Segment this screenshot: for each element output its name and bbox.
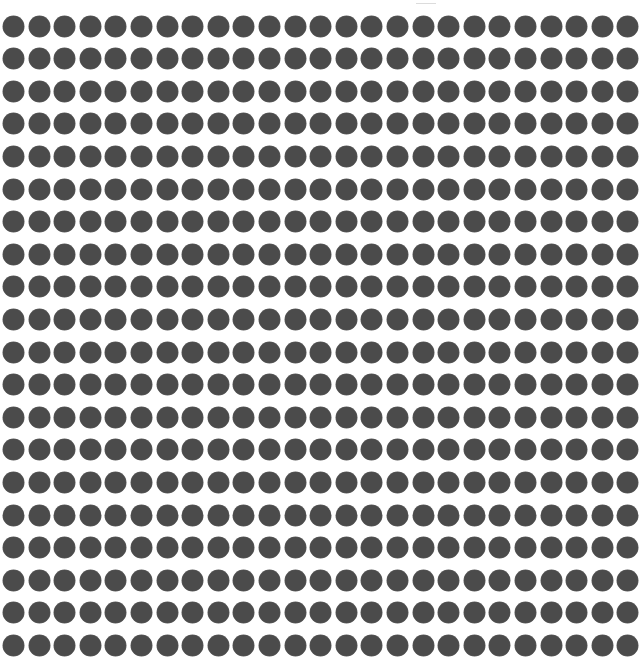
dot-circle-icon bbox=[387, 635, 408, 656]
dot-circle-icon bbox=[182, 570, 203, 591]
dot-circle-icon bbox=[566, 439, 587, 460]
dot-circle-icon bbox=[285, 309, 306, 330]
dot-circle-icon bbox=[310, 309, 331, 330]
dot-circle-icon bbox=[464, 244, 485, 265]
dot-circle-icon bbox=[208, 570, 229, 591]
dot-circle-icon bbox=[182, 211, 203, 232]
dot-circle-icon bbox=[259, 81, 280, 102]
dot-circle-icon bbox=[489, 146, 510, 167]
dot-circle-icon bbox=[361, 635, 382, 656]
dot-circle-icon bbox=[592, 16, 613, 37]
dot-circle-icon bbox=[208, 16, 229, 37]
dot-circle-icon bbox=[489, 570, 510, 591]
dot-circle-icon bbox=[413, 472, 434, 493]
dot-circle-icon bbox=[182, 179, 203, 200]
dot-circle-icon bbox=[489, 342, 510, 363]
dot-circle-icon bbox=[310, 374, 331, 395]
dot-circle-icon bbox=[208, 276, 229, 297]
dot-circle-icon bbox=[285, 244, 306, 265]
dot-circle-icon bbox=[233, 439, 254, 460]
dot-circle-icon bbox=[336, 505, 357, 526]
dot-circle-icon bbox=[566, 472, 587, 493]
dot-circle-icon bbox=[336, 146, 357, 167]
dot-circle-icon bbox=[80, 407, 101, 428]
dot-circle-icon bbox=[489, 407, 510, 428]
dot-circle-icon bbox=[617, 146, 638, 167]
dot-circle-icon bbox=[182, 81, 203, 102]
dot-circle-icon bbox=[541, 179, 562, 200]
dot-circle-icon bbox=[566, 211, 587, 232]
dot-circle-icon bbox=[208, 179, 229, 200]
dot-circle-icon bbox=[233, 342, 254, 363]
dot-circle-icon bbox=[541, 439, 562, 460]
dot-circle-icon bbox=[438, 635, 459, 656]
dot-circle-icon bbox=[285, 635, 306, 656]
dot-circle-icon bbox=[515, 537, 536, 558]
dot-circle-icon bbox=[285, 342, 306, 363]
dot-circle-icon bbox=[285, 16, 306, 37]
dot-circle-icon bbox=[438, 81, 459, 102]
dot-circle-icon bbox=[182, 374, 203, 395]
dot-circle-icon bbox=[464, 570, 485, 591]
dot-circle-icon bbox=[208, 537, 229, 558]
dot-circle-icon bbox=[387, 342, 408, 363]
dot-circle-icon bbox=[54, 146, 75, 167]
dot-circle-icon bbox=[80, 146, 101, 167]
dot-circle-icon bbox=[361, 48, 382, 69]
dot-circle-icon bbox=[387, 505, 408, 526]
dot-circle-icon bbox=[489, 211, 510, 232]
dot-circle-icon bbox=[515, 472, 536, 493]
dot-circle-icon bbox=[131, 439, 152, 460]
dot-circle-icon bbox=[361, 244, 382, 265]
dot-circle-icon bbox=[208, 48, 229, 69]
dot-circle-icon bbox=[233, 16, 254, 37]
dot-circle-icon bbox=[54, 374, 75, 395]
dot-circle-icon bbox=[489, 439, 510, 460]
dot-circle-icon bbox=[310, 276, 331, 297]
dot-circle-icon bbox=[617, 113, 638, 134]
dot-circle-icon bbox=[208, 146, 229, 167]
dot-circle-icon bbox=[157, 342, 178, 363]
dot-circle-icon bbox=[438, 407, 459, 428]
dot-circle-icon bbox=[515, 374, 536, 395]
dot-circle-icon bbox=[54, 407, 75, 428]
dot-circle-icon bbox=[617, 276, 638, 297]
dot-circle-icon bbox=[105, 146, 126, 167]
dot-circle-icon bbox=[54, 276, 75, 297]
dot-circle-icon bbox=[310, 570, 331, 591]
dot-circle-icon bbox=[182, 16, 203, 37]
dot-circle-icon bbox=[438, 179, 459, 200]
dot-circle-icon bbox=[310, 537, 331, 558]
dot-circle-icon bbox=[361, 81, 382, 102]
dot-circle-icon bbox=[541, 16, 562, 37]
top-artifact-mark bbox=[416, 3, 436, 4]
dot-circle-icon bbox=[336, 570, 357, 591]
dot-circle-icon bbox=[3, 146, 24, 167]
dot-circle-icon bbox=[387, 602, 408, 623]
dot-circle-icon bbox=[310, 472, 331, 493]
dot-circle-icon bbox=[285, 81, 306, 102]
dot-circle-icon bbox=[464, 472, 485, 493]
dot-circle-icon bbox=[54, 16, 75, 37]
dot-circle-icon bbox=[438, 505, 459, 526]
dot-circle-icon bbox=[310, 244, 331, 265]
dot-circle-icon bbox=[285, 407, 306, 428]
dot-circle-icon bbox=[617, 537, 638, 558]
dot-circle-icon bbox=[438, 537, 459, 558]
dot-circle-icon bbox=[131, 113, 152, 134]
dot-circle-icon bbox=[285, 211, 306, 232]
dot-circle-icon bbox=[592, 211, 613, 232]
dot-circle-icon bbox=[515, 146, 536, 167]
dot-circle-icon bbox=[592, 146, 613, 167]
dot-circle-icon bbox=[80, 505, 101, 526]
dot-circle-icon bbox=[413, 439, 434, 460]
dot-circle-icon bbox=[336, 635, 357, 656]
dot-circle-icon bbox=[413, 81, 434, 102]
dot-circle-icon bbox=[310, 635, 331, 656]
dot-circle-icon bbox=[182, 146, 203, 167]
dot-circle-icon bbox=[259, 276, 280, 297]
dot-circle-icon bbox=[208, 374, 229, 395]
dot-circle-icon bbox=[131, 244, 152, 265]
dot-circle-icon bbox=[259, 537, 280, 558]
dot-circle-icon bbox=[336, 472, 357, 493]
